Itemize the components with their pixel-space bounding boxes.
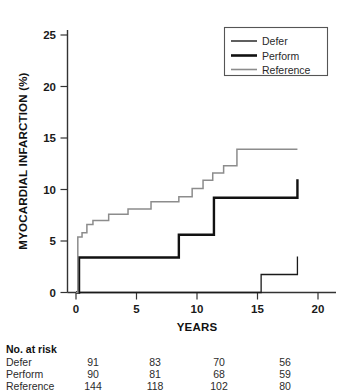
y-tick-label-5: 5 bbox=[50, 235, 57, 247]
risk-value-perform-0: 90 bbox=[87, 368, 99, 380]
risk-value-perform-15: 59 bbox=[279, 368, 291, 380]
legend-label-reference: Reference bbox=[262, 64, 311, 76]
curve-defer bbox=[76, 256, 297, 292]
risk-row-label-reference: Reference bbox=[6, 380, 55, 392]
y-tick-label-20: 20 bbox=[43, 81, 56, 93]
x-axis-title: YEARS bbox=[177, 321, 218, 333]
y-tick-label-10: 10 bbox=[43, 184, 56, 196]
y-axis-title: MYOCARDIAL INFARCTION (%) bbox=[17, 72, 29, 249]
y-tick-label-15: 15 bbox=[43, 132, 56, 144]
risk-value-reference-0: 144 bbox=[84, 380, 102, 392]
x-tick-label-15: 15 bbox=[251, 303, 264, 315]
legend-label-defer: Defer bbox=[262, 35, 288, 47]
risk-value-reference-5: 118 bbox=[147, 380, 164, 392]
x-tick-label-0: 0 bbox=[73, 303, 79, 315]
risk-table-title: No. at risk bbox=[6, 343, 57, 355]
risk-value-defer-5: 83 bbox=[149, 356, 161, 368]
risk-row-label-perform: Perform bbox=[6, 368, 44, 380]
risk-table: No. at risk Defer 91 83 70 56 Perform 90… bbox=[6, 343, 291, 392]
x-axis-ticks: 0 5 10 15 20 bbox=[73, 293, 325, 316]
curve-reference bbox=[76, 149, 297, 292]
risk-row-label-defer: Defer bbox=[6, 356, 32, 368]
legend-label-perform: Perform bbox=[262, 50, 300, 62]
x-tick-label-20: 20 bbox=[312, 303, 325, 315]
y-tick-label-0: 0 bbox=[50, 287, 56, 299]
figure-panel: 0 5 10 15 20 25 0 5 10 15 20 YEARS MYOCA… bbox=[0, 0, 349, 392]
y-tick-label-25: 25 bbox=[43, 29, 56, 41]
risk-value-defer-15: 56 bbox=[279, 356, 291, 368]
risk-value-defer-10: 70 bbox=[213, 356, 225, 368]
x-tick-label-10: 10 bbox=[191, 303, 204, 315]
risk-value-reference-10: 102 bbox=[210, 380, 228, 392]
risk-value-defer-0: 91 bbox=[87, 356, 99, 368]
risk-value-perform-5: 81 bbox=[149, 368, 161, 380]
survival-curves bbox=[76, 149, 297, 292]
y-axis-ticks: 0 5 10 15 20 25 bbox=[43, 29, 67, 299]
risk-value-perform-10: 68 bbox=[213, 368, 225, 380]
risk-value-reference-15: 80 bbox=[279, 380, 291, 392]
chart-svg: 0 5 10 15 20 25 0 5 10 15 20 YEARS MYOCA… bbox=[0, 0, 349, 392]
legend: Defer Perform Reference bbox=[225, 28, 328, 76]
x-tick-label-5: 5 bbox=[133, 303, 140, 315]
